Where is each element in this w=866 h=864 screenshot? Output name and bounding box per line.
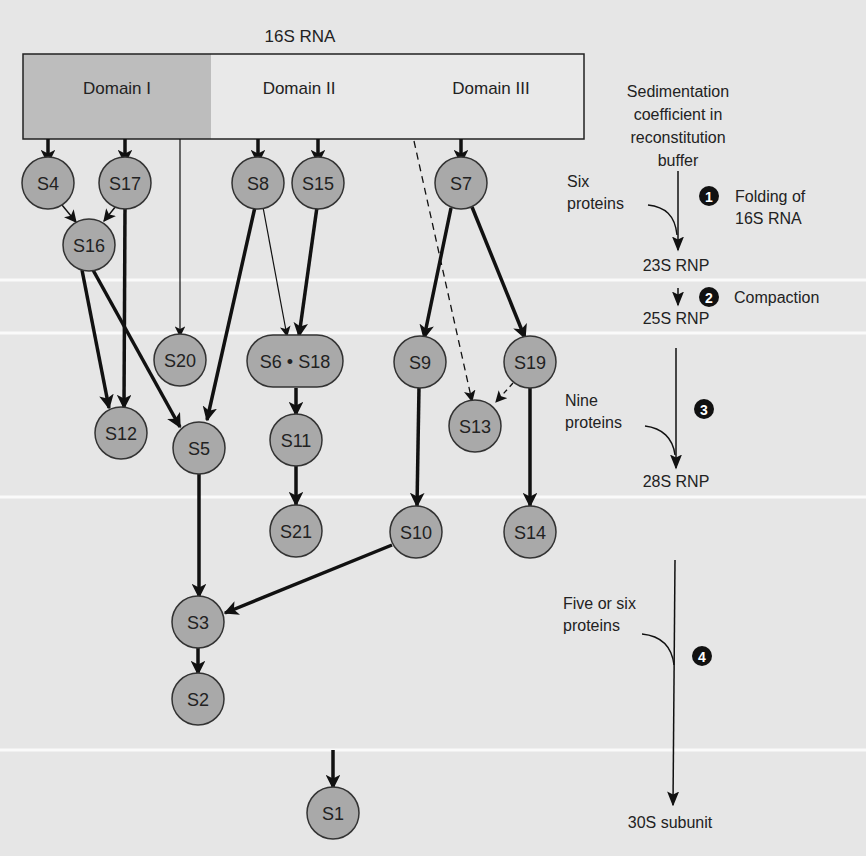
protein-label: S16 — [73, 236, 105, 256]
protein-label: S4 — [37, 174, 59, 194]
protein-label: S2 — [187, 690, 209, 710]
protein-node-s21: S21 — [270, 505, 322, 557]
protein-node-s11: S11 — [270, 414, 322, 466]
protein-node-s3: S3 — [172, 596, 224, 648]
protein-label: S20 — [164, 351, 196, 371]
protein-label: S11 — [281, 431, 312, 451]
protein-node-s2: S2 — [172, 673, 224, 725]
diagram-canvas: 16S RNA Domain I Domain II Domain III — [0, 0, 866, 864]
protein-node-s20: S20 — [154, 334, 206, 386]
step-1-badge: 1 — [699, 186, 719, 206]
step-2-description: Compaction — [734, 289, 819, 306]
protein-label: S14 — [514, 523, 546, 543]
protein-label: S3 — [187, 613, 209, 633]
protein-label: S5 — [188, 439, 210, 459]
stage-25s-rnp: 25S RNP — [643, 310, 710, 327]
protein-node-s6s18: S6 • S18 — [247, 335, 343, 387]
protein-node-s4: S4 — [22, 157, 74, 209]
protein-label: S7 — [450, 174, 472, 194]
domain-3-label: Domain III — [452, 79, 529, 98]
protein-node-s14: S14 — [504, 506, 556, 558]
domain-1-label: Domain I — [83, 79, 151, 98]
protein-node-s13: S13 — [449, 400, 501, 452]
stage-30s-subunit: 30S subunit — [628, 814, 713, 831]
protein-label: S13 — [459, 417, 491, 437]
protein-label: S17 — [109, 174, 141, 194]
protein-node-s17: S17 — [99, 157, 151, 209]
step-2-badge: 2 — [699, 287, 719, 307]
rna-title: 16S RNA — [265, 27, 337, 46]
rna-bar: Domain I Domain II Domain III — [23, 54, 584, 139]
protein-node-s15: S15 — [292, 157, 344, 209]
protein-node-s16: S16 — [63, 219, 115, 271]
protein-label: S10 — [400, 523, 432, 543]
protein-label: S9 — [409, 353, 431, 373]
step-4-badge: 4 — [692, 646, 712, 666]
protein-label: S6 • S18 — [260, 352, 330, 372]
protein-label: S19 — [514, 353, 546, 373]
protein-label: S21 — [280, 522, 312, 542]
protein-node-s10: S10 — [390, 506, 442, 558]
protein-label: S15 — [302, 174, 334, 194]
protein-node-s8: S8 — [232, 157, 284, 209]
protein-label: S12 — [105, 424, 137, 444]
step-3-badge: 3 — [694, 399, 714, 419]
protein-label: S8 — [247, 174, 269, 194]
protein-node-s9: S9 — [394, 336, 446, 388]
stage-28s-rnp: 28S RNP — [643, 473, 710, 490]
protein-node-s5: S5 — [173, 422, 225, 474]
svg-text:4: 4 — [698, 649, 706, 665]
protein-node-s7: S7 — [435, 157, 487, 209]
domain-2-label: Domain II — [263, 79, 336, 98]
ribosome-assembly-diagram: 16S RNA Domain I Domain II Domain III — [0, 0, 866, 864]
protein-label: S1 — [322, 804, 344, 824]
protein-node-s19: S19 — [504, 336, 556, 388]
stage-23s-rnp: 23S RNP — [643, 257, 710, 274]
svg-text:1: 1 — [705, 189, 713, 205]
svg-text:3: 3 — [700, 402, 708, 418]
protein-node-s1: S1 — [307, 787, 359, 839]
protein-node-s12: S12 — [95, 407, 147, 459]
svg-text:2: 2 — [705, 290, 713, 306]
